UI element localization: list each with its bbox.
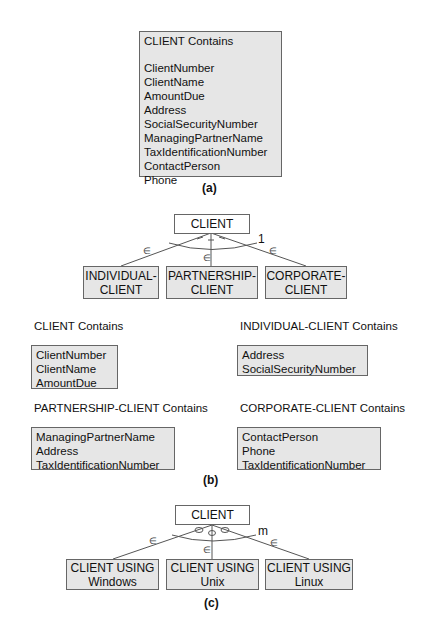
group-heading: INDIVIDUAL-CLIENT Contains [240, 320, 398, 332]
attribute: Phone [242, 444, 376, 458]
entity-label: CORPORATE- [266, 269, 345, 283]
box-title: CLIENT Contains [144, 34, 277, 48]
membership-symbol: ∈ [143, 246, 151, 256]
subtype-client-using-windows: CLIENT USINGWindows [66, 559, 159, 590]
attribute: Address [36, 444, 170, 458]
attribute: ClientNumber [144, 61, 277, 75]
subtype-individual-client: INDIVIDUAL-CLIENT [83, 266, 159, 299]
attribute: ClientName [36, 362, 113, 376]
attribute: ClientNumber [36, 348, 113, 362]
client-supertype-c: CLIENT [175, 505, 250, 525]
entity-label: CLIENT USING [267, 561, 351, 575]
entity-label: CLIENT [85, 283, 156, 297]
attribute: ContactPerson [144, 159, 277, 173]
client-supertype-b: CLIENT [174, 214, 250, 234]
entity-label: CLIENT [266, 283, 345, 297]
partnership-client-attributes-box: ManagingPartnerName Address TaxIdentific… [31, 427, 175, 470]
group-heading: PARTNERSHIP-CLIENT Contains [34, 402, 208, 414]
caption-b: (b) [203, 473, 218, 487]
corporate-client-attributes-box: ContactPerson Phone TaxIdentificationNum… [237, 427, 381, 470]
membership-symbol: ∈ [269, 246, 277, 256]
client-contains-box: CLIENT Contains ClientNumber ClientName … [139, 31, 282, 177]
entity-label: Unix [171, 575, 255, 589]
entity-label: CLIENT [168, 283, 256, 297]
client-attributes-box: ClientNumber ClientName AmountDue [31, 345, 118, 389]
attribute: ManagingPartnerName [144, 131, 277, 145]
membership-symbol: ∈ [270, 538, 278, 548]
caption-c: (c) [204, 596, 219, 610]
subtype-client-using-linux: CLIENT USINGLinux [265, 559, 353, 590]
attribute: TaxIdentificationNumber [36, 458, 170, 472]
entity-label: CLIENT USING [71, 561, 155, 575]
attribute: SocialSecurityNumber [144, 117, 277, 131]
attribute: ManagingPartnerName [36, 430, 170, 444]
subtype-partnership-client: PARTNERSHIP-CLIENT [166, 266, 258, 299]
attribute: SocialSecurityNumber [242, 362, 363, 376]
entity-label: CLIENT [191, 217, 234, 231]
membership-symbol: ∈ [203, 253, 211, 263]
entity-label: Linux [267, 575, 351, 589]
subtype-client-using-unix: CLIENT USINGUnix [166, 559, 259, 590]
group-heading: CLIENT Contains [34, 320, 123, 332]
caption-a: (a) [202, 181, 217, 195]
attribute: ClientName [144, 75, 277, 89]
entity-label: PARTNERSHIP- [168, 269, 256, 283]
constraint-label-c: m [258, 524, 268, 538]
entity-label: Windows [71, 575, 155, 589]
attribute: ContactPerson [242, 430, 376, 444]
constraint-label-b: 1 [258, 232, 265, 246]
attribute: Address [144, 103, 277, 117]
membership-symbol: ∈ [149, 536, 157, 546]
membership-symbol: ∈ [203, 545, 211, 555]
entity-label: CLIENT USING [171, 561, 255, 575]
subtype-corporate-client: CORPORATE-CLIENT [265, 266, 347, 299]
attribute: AmountDue [36, 376, 113, 390]
entity-label: INDIVIDUAL- [85, 269, 156, 283]
attribute: TaxIdentificationNumber [144, 145, 277, 159]
group-heading: CORPORATE-CLIENT Contains [240, 402, 405, 414]
individual-client-attributes-box: Address SocialSecurityNumber [237, 345, 368, 376]
attribute: AmountDue [144, 89, 277, 103]
entity-label: CLIENT [191, 508, 234, 522]
attribute: TaxIdentificationNumber [242, 458, 376, 472]
attribute: Address [242, 348, 363, 362]
